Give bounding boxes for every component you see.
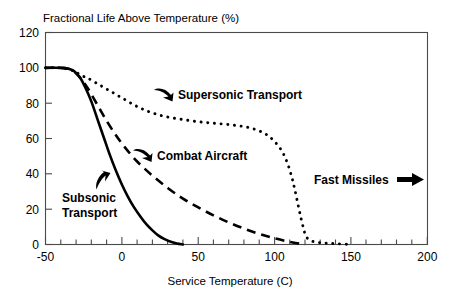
right-arrow-icon — [397, 173, 424, 186]
annotation-label-supersonic: Supersonic Transport — [178, 88, 302, 102]
chart-svg: Fractional Life Above Temperature (%) 0 … — [0, 0, 458, 300]
y-tick-label-120: 120 — [19, 26, 39, 40]
y-tick-label-100: 100 — [19, 61, 39, 75]
y-tick-label-40: 40 — [26, 167, 40, 181]
x-tick-label-100: 100 — [265, 250, 285, 264]
annotation-label-subsonic-line2: Transport — [62, 206, 117, 220]
x-minor-tick-marks — [61, 240, 412, 245]
annotation-label-subsonic-line1: Subsonic — [62, 191, 116, 205]
x-axis-title: Service Temperature (C) — [167, 275, 292, 287]
chart-title: Fractional Life Above Temperature (%) — [43, 12, 239, 24]
x-major-tick-marks — [46, 237, 428, 245]
y-tick-label-20: 20 — [26, 203, 40, 217]
annotation-supersonic-transport: Supersonic Transport — [154, 88, 302, 102]
x-tick-label-0: 0 — [119, 250, 126, 264]
annotation-subsonic-transport: Subsonic Transport — [62, 171, 117, 221]
annotation-label-combat: Combat Aircraft — [157, 149, 247, 163]
chart-container: Fractional Life Above Temperature (%) 0 … — [0, 0, 458, 300]
x-tick-label-neg50: -50 — [37, 250, 55, 264]
x-tick-label-50: 50 — [192, 250, 206, 264]
y-tick-marks — [46, 33, 53, 245]
x-tick-label-150: 150 — [341, 250, 361, 264]
y-tick-label-60: 60 — [26, 132, 40, 146]
annotation-combat-aircraft: Combat Aircraft — [133, 149, 247, 163]
curved-arrow-icon — [96, 171, 110, 190]
curved-arrow-icon — [154, 89, 174, 102]
annotation-fast-missiles: Fast Missiles — [314, 173, 424, 187]
x-tick-label-200: 200 — [417, 250, 437, 264]
y-tick-label-80: 80 — [26, 97, 40, 111]
annotation-label-fast-missiles: Fast Missiles — [314, 173, 389, 187]
